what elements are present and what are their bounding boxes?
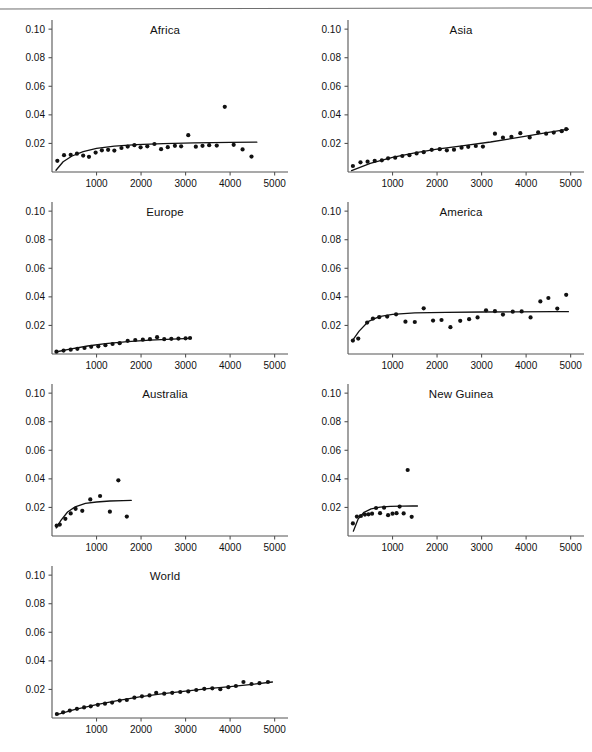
data-point [147,693,151,697]
data-point [481,144,485,148]
data-point [365,160,369,164]
data-point [108,510,112,514]
data-point [466,145,470,149]
figure-caption-strip [0,742,592,752]
x-tick-label: 4000 [515,360,538,371]
data-point [475,315,479,319]
data-point [139,145,143,149]
x-tick-label: 1000 [381,542,404,553]
panel-europe: 0.020.040.060.080.1010002000300040005000… [0,192,296,372]
x-tick-label: 5000 [264,724,287,735]
fitted-curve [56,500,131,528]
data-point [126,144,130,148]
data-point [538,299,542,303]
data-point [380,158,384,162]
x-tick-label: 2000 [130,360,153,371]
data-point [162,337,166,341]
y-tick-label: 0.02 [26,684,46,695]
data-point [96,344,100,348]
y-tick-label: 0.10 [26,24,46,35]
y-tick-label: 0.10 [26,388,46,399]
data-point [501,312,505,316]
data-point [366,512,370,516]
data-point [194,688,198,692]
y-tick-label: 0.10 [26,206,46,217]
data-point [552,130,556,134]
data-point [162,692,166,696]
x-tick-label: 1000 [85,360,108,371]
y-tick-label: 0.06 [322,81,342,92]
data-point [467,317,471,321]
data-point [80,509,84,513]
data-point [528,135,532,139]
data-point [365,320,369,324]
x-tick-label: 3000 [470,178,493,189]
data-point [359,514,363,518]
data-point [351,338,355,342]
x-tick-label: 2000 [426,360,449,371]
data-point [100,148,104,152]
data-point [393,156,397,160]
data-point [403,320,407,324]
data-point [81,153,85,157]
y-tick-label: 0.08 [322,234,342,245]
x-tick-label: 3000 [470,360,493,371]
data-point [141,338,145,342]
y-tick-label: 0.08 [26,52,46,63]
x-tick-label: 2000 [130,178,153,189]
data-point [493,309,497,313]
data-point [431,318,435,322]
x-tick-label: 5000 [264,178,287,189]
data-point [159,147,163,151]
data-point [118,698,122,702]
data-point [148,337,152,341]
data-point [484,308,488,312]
data-point [110,700,114,704]
data-point [240,147,244,151]
x-tick-label: 1000 [381,360,404,371]
data-point [118,341,122,345]
y-tick-label: 0.02 [26,502,46,513]
data-point [88,497,92,501]
data-point [89,345,93,349]
panel-america: 0.020.040.060.080.1010002000300040005000… [296,192,592,372]
panel-asia: 0.020.040.060.080.1010002000300040005000… [296,10,592,190]
data-point [155,335,159,339]
data-point [536,130,540,134]
x-tick-label: 3000 [174,178,197,189]
data-point [564,293,568,297]
data-point [75,347,79,351]
y-tick-label: 0.02 [322,502,342,513]
x-tick-label: 4000 [219,724,242,735]
data-point [152,142,156,146]
data-point [176,336,180,340]
data-point [218,687,222,691]
data-point [69,348,73,352]
data-point [186,689,190,693]
data-point [186,133,190,137]
data-point [555,306,559,310]
data-point [351,164,355,168]
y-tick-label: 0.04 [322,473,342,484]
data-point [564,127,568,131]
y-tick-label: 0.02 [26,320,46,331]
data-point [544,132,548,136]
data-point [62,153,66,157]
data-point [374,506,378,510]
y-tick-label: 0.10 [26,570,46,581]
data-point [402,511,406,515]
data-point [511,310,515,314]
data-point [132,143,136,147]
y-tick-label: 0.08 [26,234,46,245]
plot-area: 0.020.040.060.080.1010002000300040005000 [0,10,296,190]
data-point [166,145,170,149]
plot-area: 0.020.040.060.080.1010002000300040005000 [0,192,296,372]
data-point [202,687,206,691]
data-point [94,150,98,154]
x-tick-label: 4000 [515,542,538,553]
panel-africa: 0.020.040.060.080.1010002000300040005000… [0,10,296,190]
x-tick-label: 2000 [130,724,153,735]
x-tick-label: 4000 [219,178,242,189]
plot-area: 0.020.040.060.080.1010002000300040005000 [0,374,296,554]
data-point [75,707,79,711]
